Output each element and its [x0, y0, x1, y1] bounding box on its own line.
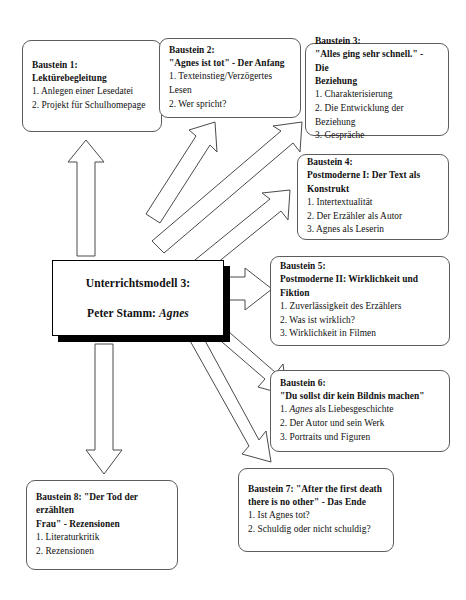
- baustein-4-item-1: 1. Intertextualität: [307, 196, 439, 210]
- center-node-work-title: Agnes: [159, 307, 189, 319]
- baustein-4-item-3: 3. Agnes als Leserin: [307, 223, 439, 237]
- baustein-2-node[interactable]: Baustein 2: "Agnes ist tot" - Der Anfang…: [159, 38, 301, 118]
- baustein-1-node[interactable]: Baustein 1: Lektürebegleitung 1. Anlegen…: [22, 40, 162, 132]
- baustein-3-heading-line-3: Beziehung: [315, 75, 439, 88]
- baustein-8-heading-line-2: Frau" - Rezensionen: [36, 518, 168, 531]
- baustein-6-item-1-work-title: Agnes: [290, 404, 313, 414]
- baustein-5-item-2: 2. Was ist wirklich?: [280, 314, 440, 328]
- baustein-3-item-3: 3. Gespräche: [315, 129, 439, 143]
- arrow-to-baustein-1: [68, 140, 104, 256]
- baustein-6-item-2: 2. Der Autor und sein Werk: [280, 417, 440, 431]
- arrow-to-baustein-3: [152, 122, 302, 253]
- baustein-6-item-1-prefix: 1.: [280, 404, 290, 414]
- baustein-4-heading-line-2: Postmoderne I: Der Text als: [307, 169, 439, 182]
- baustein-7-heading-line-2: there is no other" - Das Ende: [248, 496, 384, 509]
- baustein-6-heading-line-1: Baustein 6:: [280, 377, 440, 390]
- baustein-8-item-1: 1. Literaturkritik: [36, 531, 168, 545]
- baustein-2-item-1: 1. Texteinstieg/Verzögertes Lesen: [169, 70, 291, 97]
- baustein-5-node[interactable]: Baustein 5: Postmoderne II: Wirklichkeit…: [270, 256, 450, 346]
- baustein-1-heading-line-1: Baustein 1:: [32, 59, 152, 72]
- baustein-5-heading-line-2: Postmoderne II: Wirklichkeit und: [280, 273, 440, 286]
- baustein-2-item-2: 2. Wer spricht?: [169, 98, 291, 112]
- baustein-8-heading-line-1: Baustein 8: "Der Tod der erzählten: [36, 491, 168, 518]
- baustein-7-item-1: 1. Ist Agnes tot?: [248, 509, 384, 523]
- baustein-4-heading-line-3: Konstrukt: [307, 183, 439, 196]
- baustein-2-heading-line-2: "Agnes ist tot" - Der Anfang: [169, 57, 291, 70]
- baustein-1-heading-line-2: Lektürebegleitung: [32, 72, 152, 85]
- baustein-3-item-2: 2. Die Entwicklung der Beziehung: [315, 102, 439, 129]
- arrow-to-baustein-8: [86, 344, 122, 474]
- baustein-8-item-2: 2. Rezensionen: [36, 545, 168, 559]
- baustein-5-heading-line-1: Baustein 5:: [280, 260, 440, 273]
- baustein-1-item-1: 1. Anlegen einer Lesedatei: [32, 85, 152, 99]
- arrow-to-baustein-7: [184, 324, 271, 462]
- baustein-6-item-1-suffix: als Liebesgeschichte: [313, 404, 394, 414]
- baustein-3-heading-line-1: Baustein 3:: [315, 35, 439, 48]
- baustein-4-node[interactable]: Baustein 4: Postmoderne I: Der Text als …: [297, 154, 449, 240]
- baustein-6-item-1: 1. Agnes als Liebesgeschichte: [280, 403, 440, 417]
- baustein-4-item-2: 2. Der Erzähler als Autor: [307, 210, 439, 224]
- baustein-6-item-3: 3. Portraits und Figuren: [280, 431, 440, 445]
- baustein-6-heading-line-2: "Du sollst dir kein Bildnis machen": [280, 390, 440, 403]
- baustein-7-heading-line-1: Baustein 7: "After the first death: [248, 483, 384, 496]
- arrow-to-baustein-2: [146, 122, 217, 223]
- unterrichtsmodell-center-node[interactable]: Unterrichtsmodell 3: Peter Stamm: Agnes: [52, 260, 224, 336]
- center-node-author: Peter Stamm:: [87, 307, 159, 319]
- diagram-canvas: Unterrichtsmodell 3: Peter Stamm: Agnes …: [0, 0, 466, 600]
- baustein-6-node[interactable]: Baustein 6: "Du sollst dir kein Bildnis …: [270, 370, 450, 452]
- baustein-4-heading-line-1: Baustein 4:: [307, 156, 439, 169]
- baustein-1-item-2: 2. Projekt für Schulhomepage: [32, 99, 152, 113]
- baustein-2-heading-line-1: Baustein 2:: [169, 44, 291, 57]
- baustein-7-item-2: 2. Schuldig oder nicht schuldig?: [248, 523, 384, 537]
- baustein-3-heading-line-2: "Alles ging sehr schnell." - Die: [315, 48, 439, 75]
- baustein-5-heading-line-3: Fiktion: [280, 287, 440, 300]
- baustein-5-item-3: 3. Wirklichkeit in Filmen: [280, 327, 440, 341]
- baustein-3-node[interactable]: Baustein 3: "Alles ging sehr schnell." -…: [305, 43, 449, 136]
- baustein-8-node[interactable]: Baustein 8: "Der Tod der erzählten Frau"…: [26, 480, 178, 570]
- baustein-7-node[interactable]: Baustein 7: "After the first death there…: [238, 468, 394, 552]
- center-node-line-2: Peter Stamm: Agnes: [87, 306, 189, 320]
- center-node-line-1: Unterrichtsmodell 3:: [86, 276, 191, 290]
- baustein-5-item-1: 1. Zuverlässigkeit des Erzählers: [280, 300, 440, 314]
- baustein-3-item-1: 1. Charakterisierung: [315, 88, 439, 102]
